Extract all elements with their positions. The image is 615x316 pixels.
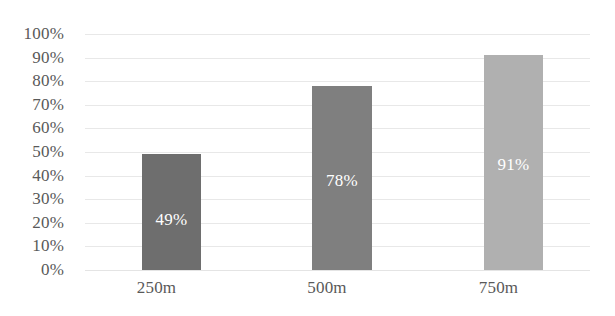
bar-250m[interactable]: 49% (142, 154, 201, 270)
bar-750m[interactable]: 91% (484, 55, 543, 270)
plot-area: 49% 78% 91% (85, 34, 590, 270)
y-axis-tick-label: 50% (0, 142, 64, 162)
y-axis-tick-label: 20% (0, 213, 64, 233)
y-axis-tick-label: 0% (0, 260, 64, 280)
y-axis-tick-label: 100% (0, 24, 64, 44)
x-axis-label-250m: 250m (102, 278, 212, 298)
y-axis-tick-label: 30% (0, 189, 64, 209)
bar-chart: 100% 90% 80% 70% 60% 50% 40% 30% 20% 10%… (0, 0, 615, 316)
gridline-baseline (85, 270, 590, 271)
y-axis-tick-label: 60% (0, 118, 64, 138)
bar-value-label: 49% (142, 210, 201, 230)
bar-value-label: 91% (484, 155, 543, 175)
y-axis-tick-label: 70% (0, 95, 64, 115)
y-axis-tick-label: 40% (0, 166, 64, 186)
x-axis-label-750m: 750m (444, 278, 554, 298)
gridline (85, 34, 590, 35)
y-axis-tick-label: 90% (0, 48, 64, 68)
y-axis-tick-label: 80% (0, 71, 64, 91)
bar-value-label: 78% (312, 171, 372, 191)
x-axis-label-500m: 500m (272, 278, 382, 298)
y-axis-tick-label: 10% (0, 236, 64, 256)
bar-500m[interactable]: 78% (312, 86, 372, 270)
